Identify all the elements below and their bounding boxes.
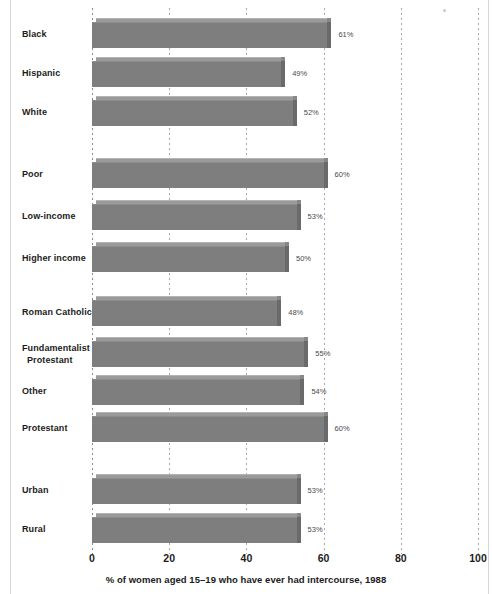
bar-value-label: 61% (338, 30, 353, 39)
bar-front-face (92, 204, 297, 230)
bar[interactable] (92, 158, 328, 192)
x-tick-label-40: 40 (241, 552, 253, 564)
bar-chart-plot-area: 61%49%52%60%53%50%48%55%54%60%53%53% Bla… (0, 0, 492, 594)
bar-front-face (92, 22, 327, 48)
bar-side-face (300, 379, 304, 405)
bar-value-label: 53% (308, 525, 323, 534)
bar-side-face (327, 22, 331, 48)
bar[interactable] (92, 412, 328, 446)
bar-side-face (304, 341, 308, 367)
category-label: Roman Catholic (22, 307, 106, 318)
x-tick-label-80: 80 (395, 552, 407, 564)
category-label: Urban (22, 485, 106, 496)
bar-front-face (92, 300, 277, 326)
bar-side-face (281, 61, 285, 87)
category-label: Other (22, 386, 106, 397)
category-label: Protestant (22, 423, 106, 434)
x-tick-label-0: 0 (89, 552, 95, 564)
bar-value-label: 60% (335, 170, 350, 179)
bar-value-label: 55% (315, 349, 330, 358)
bar-value-label: 53% (308, 486, 323, 495)
bar-side-face (297, 478, 301, 504)
bar-front-face (92, 162, 324, 188)
bar[interactable] (92, 57, 285, 91)
category-label: Hispanic (22, 68, 106, 79)
bar[interactable] (92, 375, 304, 409)
gridline-60 (324, 8, 325, 554)
bar-side-face (324, 416, 328, 442)
bar[interactable] (92, 96, 297, 130)
gridline-100 (478, 8, 479, 554)
category-label: Poor (22, 169, 106, 180)
bar-value-label: 48% (288, 308, 303, 317)
category-label: Low-income (22, 211, 106, 222)
x-tick-label-20: 20 (163, 552, 175, 564)
category-label: White (22, 107, 106, 118)
bar-front-face (92, 379, 300, 405)
category-label: Black (22, 29, 106, 40)
bar[interactable] (92, 513, 301, 547)
bar-value-label: 54% (311, 387, 326, 396)
category-label: Higher income (22, 253, 106, 264)
bar[interactable] (92, 337, 308, 371)
bar-front-face (92, 478, 297, 504)
bar-side-face (297, 204, 301, 230)
bar[interactable] (92, 296, 281, 330)
bar-side-face (297, 517, 301, 543)
bar-value-label: 53% (308, 212, 323, 221)
bar-front-face (92, 517, 297, 543)
category-label: FundamentalistProtestant (22, 343, 106, 366)
bar-value-label: 52% (304, 108, 319, 117)
bar-side-face (293, 100, 297, 126)
bar-front-face (92, 61, 281, 87)
bar[interactable] (92, 18, 331, 52)
bar[interactable] (92, 200, 301, 234)
bar-front-face (92, 341, 304, 367)
gridline-80 (401, 8, 402, 554)
chart-page: 61%49%52%60%53%50%48%55%54%60%53%53% Bla… (0, 0, 492, 594)
bar-side-face (324, 162, 328, 188)
x-tick-label-60: 60 (318, 552, 330, 564)
bar-value-label: 50% (296, 254, 311, 263)
bar-front-face (92, 246, 285, 272)
category-label: Rural (22, 524, 106, 535)
bar-value-label: 60% (335, 424, 350, 433)
bar-side-face (285, 246, 289, 272)
bar-side-face (277, 300, 281, 326)
x-axis-caption: % of women aged 15–19 who have ever had … (0, 574, 492, 585)
bar[interactable] (92, 474, 301, 508)
bar-front-face (92, 100, 293, 126)
bar-value-label: 49% (292, 69, 307, 78)
x-tick-label-100: 100 (469, 552, 487, 564)
bar-front-face (92, 416, 324, 442)
bar[interactable] (92, 242, 289, 276)
